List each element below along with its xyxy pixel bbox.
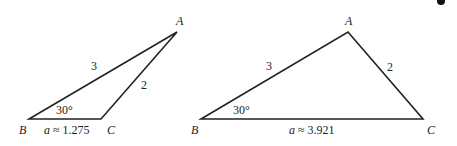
triangle-2-side-ac: 2 [387, 60, 393, 74]
triangle-2-vertex-c: C [427, 123, 436, 137]
triangle-1-side-ab: 3 [91, 59, 97, 73]
triangle-2-side-ab: 3 [266, 59, 272, 73]
triangle-1-outline [29, 32, 177, 119]
triangle-1-side-ac: 2 [141, 78, 147, 92]
triangle-1-side-a: a ≈ 1.275 [44, 123, 90, 137]
triangle-1-vertex-c: C [107, 123, 116, 137]
triangle-1-angle-b: 30° [56, 103, 73, 117]
triangle-1-vertex-a: A [175, 14, 184, 28]
two-triangles-diagram: A B C 3 2 30° a ≈ 1.275 A B C 3 2 30° a … [0, 0, 457, 146]
triangle-2-angle-b: 30° [233, 103, 250, 117]
triangle-1-vertex-b: B [19, 123, 27, 137]
triangle-2: A B C 3 2 30° a ≈ 3.921 [191, 14, 436, 137]
corner-dot [437, 0, 445, 5]
triangle-2-vertex-b: B [191, 123, 199, 137]
triangle-1: A B C 3 2 30° a ≈ 1.275 [19, 14, 184, 137]
triangle-2-side-a: a ≈ 3.921 [289, 123, 335, 137]
triangle-2-vertex-a: A [344, 14, 353, 28]
